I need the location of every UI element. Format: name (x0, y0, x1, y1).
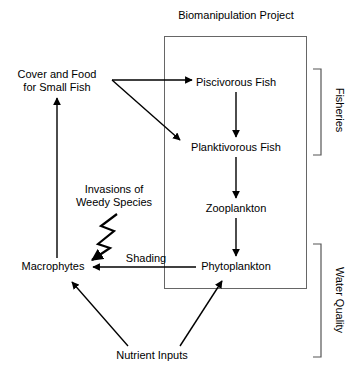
node-macrophytes: Macrophytes (22, 260, 85, 273)
edge-label-shading: Shading (126, 252, 166, 264)
diagram-edges-layer (0, 0, 363, 372)
biomanipulation-project-title: Biomanipulation Project (178, 9, 294, 21)
node-invasions-of-weedy-species: Invasions of Weedy Species (76, 183, 152, 209)
bracket-label-water-quality: Water Quality (334, 267, 346, 333)
water-quality-bracket (313, 244, 321, 357)
node-nutrient-inputs: Nutrient Inputs (116, 349, 188, 362)
fisheries-bracket (313, 69, 321, 155)
node-piscivorous-fish: Piscivorous Fish (196, 76, 276, 89)
bracket-label-fisheries: Fisheries (334, 88, 346, 133)
node-phytoplankton: Phytoplankton (201, 260, 271, 273)
edge-nutrient-inputs-to-phytoplankton (180, 281, 222, 346)
edge-invasions-to-macrophytes-zigzag (92, 214, 117, 260)
node-zooplankton: Zooplankton (206, 202, 267, 215)
edge-nutrient-inputs-to-macrophytes (72, 282, 128, 346)
diagram-canvas: Biomanipulation Project Cover and Food f… (0, 0, 363, 372)
edge-cover-food-to-planktivorous (112, 80, 180, 140)
node-planktivorous-fish: Planktivorous Fish (191, 141, 281, 154)
node-cover-and-food-for-small-fish: Cover and Food for Small Fish (18, 68, 97, 94)
